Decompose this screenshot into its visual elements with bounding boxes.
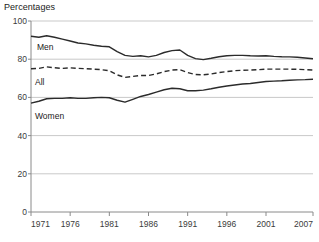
y-tick-label: 0 <box>22 207 27 217</box>
y-tick-label: 60 <box>18 92 28 102</box>
x-axis-ticks <box>31 212 313 216</box>
series-label-men: Men <box>37 42 54 52</box>
x-tick-label: 1981 <box>100 219 119 229</box>
y-tick-label: 100 <box>13 16 27 26</box>
series-line-women <box>31 79 313 103</box>
y-tick-label: 20 <box>18 169 28 179</box>
y-tick-label: 40 <box>18 131 28 141</box>
x-tick-label: 1976 <box>61 219 80 229</box>
x-tick-label: 1971 <box>31 219 50 229</box>
x-tick-label: 1996 <box>217 219 236 229</box>
x-axis-tick-labels: 19711976198119861991199620012007 <box>31 219 313 229</box>
x-tick-label: 2007 <box>294 219 313 229</box>
series-line-all <box>31 67 313 78</box>
line-chart-plot: 020406080100 197119761981198619911996200… <box>0 0 319 242</box>
y-tick-label: 80 <box>18 54 28 64</box>
series-label-women: Women <box>35 111 64 121</box>
x-tick-label: 1986 <box>139 219 158 229</box>
series-label-all: All <box>35 77 45 87</box>
series-inline-labels: MenAllWomen <box>35 42 64 121</box>
chart-container: Percentages 020406080100 197119761981198… <box>0 0 319 242</box>
data-series-lines <box>31 36 313 103</box>
x-tick-label: 2001 <box>257 219 276 229</box>
y-axis-tick-labels: 020406080100 <box>13 16 31 217</box>
series-line-men <box>31 36 313 60</box>
x-tick-label: 1991 <box>178 219 197 229</box>
